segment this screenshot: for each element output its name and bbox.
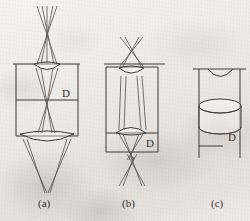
panel-c-cylinder-element: [199, 99, 241, 134]
panel-c: D (c): [193, 69, 246, 210]
panel-b-converging-rays-lower: [119, 134, 143, 160]
panel-a-upper-lens: [34, 62, 60, 70]
panel-b-lower-lens: [116, 128, 146, 136]
panel-b-upper-lens: [119, 66, 144, 73]
panel-c-dimension-label: D: [228, 131, 236, 143]
panel-b-caption: (b): [122, 197, 135, 210]
panel-a-converging-rays-bottom: [23, 139, 71, 193]
panel-b-housing-outline: [104, 64, 165, 152]
panel-b-collimated-rays-middle: [119, 76, 146, 130]
panel-c-caption: (c): [211, 197, 224, 210]
panel-a-dimension-label: D: [62, 87, 70, 99]
panel-b-dimension-label: D: [146, 137, 154, 149]
panel-a-lower-lens: [20, 131, 74, 141]
panel-b-crossing-rays-bottom: [119, 154, 145, 186]
panel-a-caption: (a): [38, 197, 51, 210]
panel-b-crossing-rays-top: [120, 37, 143, 66]
panel-b: D (b): [104, 37, 165, 210]
panel-c-concave-top-surface: [208, 69, 233, 77]
panel-a-crossing-rays-top: [37, 6, 57, 64]
optical-figure: D (a): [0, 0, 250, 221]
panel-a: D (a): [13, 6, 80, 210]
figure-drawing: D (a): [0, 0, 250, 221]
